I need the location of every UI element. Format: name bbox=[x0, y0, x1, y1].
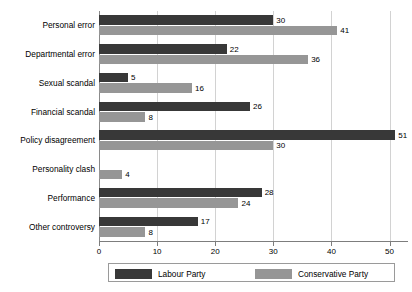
x-tick-label-0: 0 bbox=[87, 247, 111, 257]
x-tick-label-10: 10 bbox=[145, 247, 169, 257]
category-label-financial-scandal: Financial scandal bbox=[3, 107, 95, 117]
x-tick-mark-0 bbox=[99, 242, 100, 246]
x-tick-mark-40 bbox=[331, 242, 332, 246]
bar-conservative-party-sexual-scandal[interactable] bbox=[99, 83, 192, 93]
x-tick-mark-10 bbox=[157, 242, 158, 246]
bar-value-label: 8 bbox=[148, 228, 152, 237]
bar-conservative-party-personality-clash[interactable] bbox=[99, 170, 122, 180]
gridline-40 bbox=[331, 11, 332, 241]
bar-labour-party-departmental-error[interactable] bbox=[99, 44, 227, 54]
bar-value-label: 17 bbox=[201, 217, 210, 226]
bar-value-label: 4 bbox=[125, 170, 129, 179]
bar-labour-party-other-controversy[interactable] bbox=[99, 217, 198, 227]
bar-conservative-party-financial-scandal[interactable] bbox=[99, 112, 145, 122]
legend: Labour Party Conservative Party bbox=[108, 263, 395, 282]
bar-labour-party-performance[interactable] bbox=[99, 188, 262, 198]
x-axis-line bbox=[99, 241, 408, 242]
category-label-personal-error: Personal error bbox=[3, 20, 95, 30]
bar-value-label: 51 bbox=[398, 131, 407, 140]
bar-labour-party-sexual-scandal[interactable] bbox=[99, 73, 128, 83]
bar-value-label: 26 bbox=[253, 102, 262, 111]
x-tick-mark-30 bbox=[273, 242, 274, 246]
x-tick-label-50: 50 bbox=[378, 247, 402, 257]
bar-conservative-party-performance[interactable] bbox=[99, 198, 238, 208]
bar-conservative-party-other-controversy[interactable] bbox=[99, 227, 145, 237]
legend-label-conservative-party: Conservative Party bbox=[298, 269, 368, 279]
bar-value-label: 5 bbox=[131, 73, 135, 82]
x-tick-label-20: 20 bbox=[203, 247, 227, 257]
bar-value-label: 36 bbox=[311, 55, 320, 64]
category-label-sexual-scandal: Sexual scandal bbox=[3, 78, 95, 88]
legend-label-labour-party: Labour Party bbox=[158, 269, 206, 279]
category-label-personality-clash: Personality clash bbox=[3, 164, 95, 174]
x-tick-mark-50 bbox=[390, 242, 391, 246]
bar-conservative-party-departmental-error[interactable] bbox=[99, 55, 308, 65]
bar-labour-party-financial-scandal[interactable] bbox=[99, 102, 250, 112]
legend-entry-labour-party[interactable]: Labour Party bbox=[115, 267, 206, 280]
bar-value-label: 41 bbox=[340, 26, 349, 35]
x-tick-label-40: 40 bbox=[319, 247, 343, 257]
bar-value-label: 30 bbox=[276, 141, 285, 150]
bar-value-label: 30 bbox=[276, 16, 285, 25]
bar-value-label: 28 bbox=[265, 188, 274, 197]
legend-swatch-conservative-party bbox=[255, 269, 292, 279]
bar-value-label: 16 bbox=[195, 84, 204, 93]
category-label-departmental-error: Departmental error bbox=[3, 49, 95, 59]
bar-chart: 01020304050 Personal errorDepartmental e… bbox=[0, 0, 412, 292]
x-tick-label-30: 30 bbox=[261, 247, 285, 257]
category-label-policy-disagreement: Policy disagreement bbox=[3, 135, 95, 145]
category-label-other-controversy: Other controversy bbox=[3, 222, 95, 232]
bar-value-label: 22 bbox=[230, 45, 239, 54]
bar-labour-party-personal-error[interactable] bbox=[99, 15, 273, 25]
legend-entry-conservative-party[interactable]: Conservative Party bbox=[255, 267, 368, 280]
gridline-30 bbox=[273, 11, 274, 241]
bar-labour-party-policy-disagreement[interactable] bbox=[99, 130, 395, 140]
x-tick-mark-20 bbox=[215, 242, 216, 246]
category-label-performance: Performance bbox=[3, 193, 95, 203]
bar-value-label: 24 bbox=[241, 199, 250, 208]
bar-conservative-party-personal-error[interactable] bbox=[99, 26, 337, 36]
bar-conservative-party-policy-disagreement[interactable] bbox=[99, 141, 273, 151]
y-axis-category-labels: Personal errorDepartmental errorSexual s… bbox=[0, 11, 95, 241]
bar-value-label: 8 bbox=[148, 113, 152, 122]
legend-swatch-labour-party bbox=[115, 269, 152, 279]
gridline-50 bbox=[390, 11, 391, 241]
